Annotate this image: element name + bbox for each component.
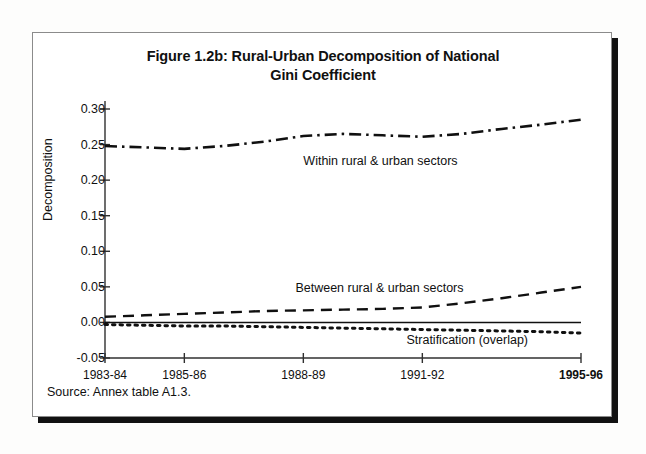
plot-area: Decomposition 0.300.250.200.150.100.050.…: [33, 33, 613, 418]
y-axis-title: Decomposition: [41, 138, 55, 221]
y-axis-tick-labels: 0.300.250.200.150.100.050.00-0.05: [59, 33, 105, 418]
x-axis-tick-label: 1988-89: [281, 368, 325, 382]
y-axis-tick-label: 0.20: [59, 173, 105, 187]
series-line-dash-dot: [105, 120, 581, 149]
y-axis-tick-label: 0.25: [59, 138, 105, 152]
y-axis-tick-label: 0.00: [59, 315, 105, 329]
chart-canvas: [33, 33, 613, 418]
y-axis-tick-label: 0.05: [59, 280, 105, 294]
series-annotation: Between rural & urban sectors: [295, 281, 463, 295]
x-axis-tick-label: 1995-96: [559, 368, 603, 382]
x-axis-tick-label: 1991-92: [400, 368, 444, 382]
source-note: Source: Annex table A1.3.: [47, 385, 191, 399]
figure-box: Figure 1.2b: Rural-Urban Decomposition o…: [32, 32, 612, 417]
x-axis-tick-label: 1985-86: [162, 368, 206, 382]
y-axis-tick-label: 0.30: [59, 102, 105, 116]
x-axis-tick-label: 1983-84: [83, 368, 127, 382]
y-axis-tick-label: 0.10: [59, 244, 105, 258]
y-axis-tick-label: 0.15: [59, 209, 105, 223]
series-annotation: Stratification (overlap): [406, 333, 528, 347]
series-annotation: Within rural & urban sectors: [303, 154, 457, 168]
y-axis-tick-label: -0.05: [59, 351, 105, 365]
series-line-dotted: [105, 325, 581, 334]
